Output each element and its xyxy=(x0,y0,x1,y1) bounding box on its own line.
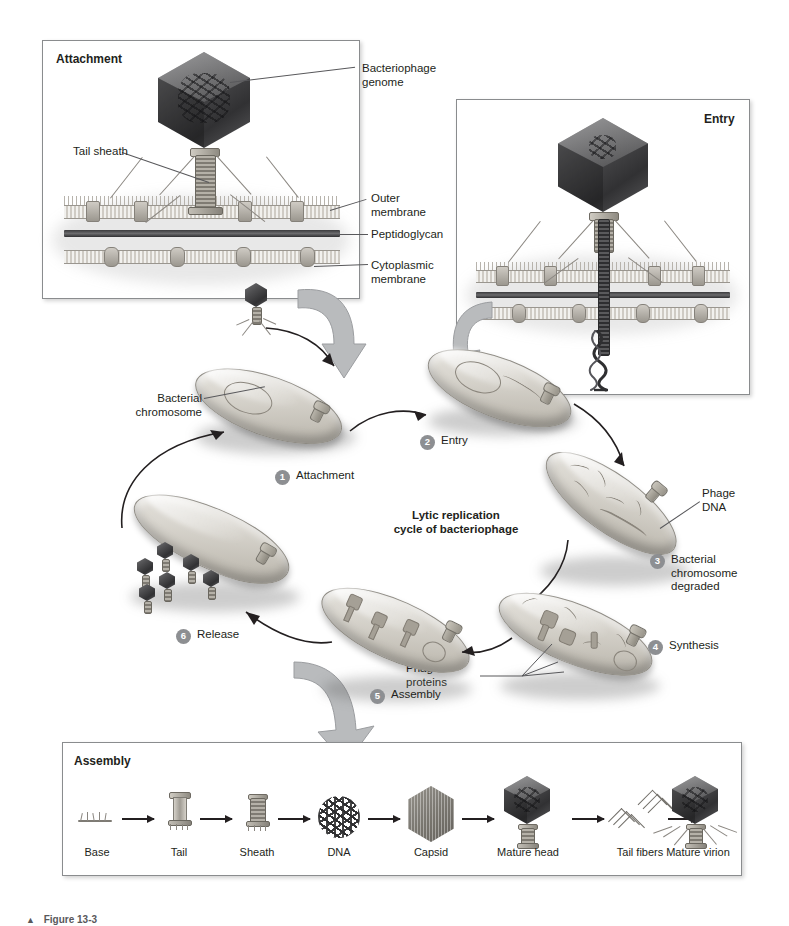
free-phage-tail-fiber xyxy=(236,319,249,326)
assembly-stage-base-art xyxy=(78,812,116,826)
released-phage-cluster xyxy=(130,540,240,608)
mature-head-capsid xyxy=(504,776,550,824)
step-5-label: Assembly xyxy=(391,688,441,702)
phage-tail-fiber xyxy=(216,155,252,194)
entry-cytoplasmic-membrane-protein xyxy=(636,304,650,323)
assembly-label-tail: Tail xyxy=(144,846,214,858)
phage-protein-tail xyxy=(591,632,598,649)
assembly-stage-tail-art xyxy=(166,792,192,828)
step-1-label: Attachment xyxy=(296,469,354,483)
entry-injected-dna xyxy=(586,330,646,392)
arrow-step2-to-step3 xyxy=(572,400,642,480)
assembly-label-mature-head: Mature head xyxy=(490,846,566,858)
cycle-title: Lytic replication cycle of bacteriophage xyxy=(366,508,546,536)
released-phage xyxy=(180,554,202,584)
assembly-arrow xyxy=(462,818,494,820)
free-phage-head xyxy=(245,283,267,307)
arrow-step4-to-step5 xyxy=(458,636,514,662)
step-6-label: Release xyxy=(197,628,239,642)
arrow-free-phage-to-step1 xyxy=(264,310,346,376)
assembly-label-mature-virion: Mature virion xyxy=(656,846,740,858)
cycle-step-5: 5 Assembly xyxy=(370,688,441,704)
released-phage xyxy=(200,570,222,600)
released-phage xyxy=(154,542,176,572)
assembly-arrow xyxy=(122,818,154,820)
caption-triangle-icon: ▲ xyxy=(26,915,35,925)
phage-baseplate xyxy=(188,207,223,215)
assembly-label-dna: DNA xyxy=(304,846,374,858)
outer-membrane-protein xyxy=(290,201,304,222)
phage-head-capsid xyxy=(158,52,250,148)
lytic-cycle-figure: Attachment Bacteriophage genome Tail she… xyxy=(0,0,789,926)
cycle-step-3: 3 Bacterial chromosome degraded xyxy=(650,553,770,594)
arrow-step1-to-step2 xyxy=(348,405,436,445)
bacteriophage-genome-strands xyxy=(178,73,230,123)
released-phage xyxy=(136,584,158,614)
entry-panel-title: Entry xyxy=(704,112,735,126)
phage-tail-sheath xyxy=(195,155,216,211)
entry-phage xyxy=(550,118,656,288)
entry-phage-tail-fiber xyxy=(558,220,594,259)
packaged-genome xyxy=(514,787,540,812)
assembly-arrow xyxy=(572,818,604,820)
label-phage-dna: Phage DNA xyxy=(702,487,772,514)
entry-cytoplasmic-membrane-protein xyxy=(694,304,708,323)
assembly-panel-title: Assembly xyxy=(74,754,131,768)
step-2-label: Entry xyxy=(441,434,468,448)
assembly-label-sheath: Sheath xyxy=(222,846,292,858)
leader-peptidoglycan xyxy=(330,234,368,235)
step-5-badge: 5 xyxy=(370,689,385,704)
cytoplasmic-membrane-protein xyxy=(104,247,119,267)
assembly-arrow xyxy=(368,818,400,820)
assembly-stage-sheath-art xyxy=(244,794,270,828)
entry-cytoplasmic-membrane-protein xyxy=(572,304,586,323)
label-tail-sheath: Tail sheath xyxy=(58,145,128,159)
assembly-label-base: Base xyxy=(62,846,132,858)
arrow-step5-to-step6 xyxy=(242,608,334,650)
label-bacteriophage-genome: Bacteriophage genome xyxy=(362,62,482,89)
step-4-badge: 4 xyxy=(648,640,663,655)
attachment-phage xyxy=(150,52,260,212)
step-1-badge: 1 xyxy=(275,470,290,485)
assembly-stage-mature-head-art xyxy=(500,776,554,846)
entry-phage-head-capsid xyxy=(558,118,648,212)
attachment-panel-title: Attachment xyxy=(56,52,122,66)
mature-virion-capsid xyxy=(672,776,718,824)
assembly-arrow xyxy=(278,818,310,820)
outer-membrane-protein xyxy=(86,201,100,222)
cycle-step-1: 1 Attachment xyxy=(275,469,354,485)
entry-cytoplasmic-membrane-protein xyxy=(512,304,526,323)
assembly-arrow xyxy=(200,818,232,820)
free-phage-tail-fiber xyxy=(242,321,254,336)
packaged-genome xyxy=(682,787,708,812)
cytoplasmic-membrane-protein xyxy=(300,247,315,267)
arrow-step6-to-step1 xyxy=(112,414,232,534)
figure-caption: ▲ Figure 13-3 xyxy=(26,914,97,925)
cytoplasmic-membrane-protein xyxy=(170,247,185,267)
cycle-step-4: 4 Synthesis xyxy=(648,639,719,655)
step-6-badge: 6 xyxy=(176,629,191,644)
cycle-step-6: 6 Release xyxy=(176,628,239,644)
entry-phage-tail-fiber xyxy=(544,258,579,283)
assembly-label-capsid: Capsid xyxy=(396,846,466,858)
step-3-label: Bacterial chromosome degraded xyxy=(671,553,737,594)
entry-phage-tail-fiber xyxy=(614,219,650,258)
caption-text: Figure 13-3 xyxy=(44,914,97,925)
entry-outer-membrane-protein xyxy=(496,266,509,286)
cytoplasmic-membrane-protein xyxy=(236,247,251,267)
step-3-badge: 3 xyxy=(650,554,665,569)
outer-membrane-protein xyxy=(134,201,148,222)
assembly-stage-dna-art xyxy=(318,796,360,838)
peptidoglycan-layer xyxy=(64,230,340,237)
assembly-stage-mature-virion-art xyxy=(662,776,728,846)
released-phage xyxy=(156,572,178,602)
step-4-label: Synthesis xyxy=(669,639,719,653)
entry-phage-genome-remnant xyxy=(589,135,616,159)
entry-outer-membrane-protein xyxy=(692,266,705,286)
